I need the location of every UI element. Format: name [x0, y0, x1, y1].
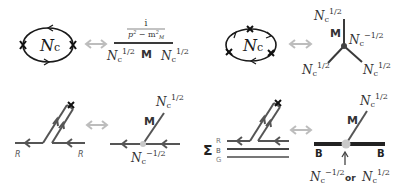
propagator-denominator: p2 − m2M	[128, 29, 165, 40]
panel-bottom-left-quark	[15, 105, 85, 147]
panel-bottom-right-baryon: Σ R B G	[203, 100, 289, 164]
meson-label: M	[141, 48, 152, 61]
top-nc-factor: Nc1/2	[313, 7, 342, 24]
meson-label: M	[347, 114, 358, 127]
quark-meson-vertex: Nc1/2 M Nc−1/2	[110, 93, 184, 166]
three-meson-vertex: Nc1/2 M Nc−1/2 Nc1/2 Nc1/2	[301, 7, 391, 78]
vertex-dot	[342, 140, 351, 149]
baryon-meson-vertex: Nc1/2 M B B Nc−1/2 or Nc1/2	[309, 92, 390, 185]
panel-top-right-loop: Nc	[226, 26, 276, 64]
sum-symbol: Σ	[203, 142, 213, 158]
loop-nc-label: Nc	[39, 36, 60, 55]
vertex-nc-factor: Nc−1/2	[130, 149, 166, 166]
right-nc-factor: Nc1/2	[362, 61, 391, 78]
baryon-label-right: B	[377, 148, 385, 159]
left-nc-factor: Nc1/2	[106, 47, 135, 64]
vertex-nc-factor: Nc−1/2	[348, 31, 384, 48]
equivalence-arrow-icon	[291, 126, 311, 134]
color-label-right: R	[78, 150, 84, 159]
insertion-cross-left-icon	[226, 49, 232, 55]
color-label-left: R	[15, 150, 21, 159]
loop-arrow-left-icon	[231, 32, 236, 38]
meson-label: M	[144, 115, 155, 128]
large-nc-diagrams: Nc i p2 − m2M Nc1/2 M Nc1/2 Nc	[0, 0, 397, 191]
option2-nc-factor: Nc1/2	[361, 168, 390, 185]
vertex-dot	[341, 43, 347, 49]
color-label-g: G	[216, 156, 221, 164]
top-nc-factor: Nc1/2	[359, 92, 388, 109]
loop-nc-label: Nc	[242, 36, 263, 55]
vertex-dot	[140, 141, 146, 147]
propagator-numerator: i	[145, 18, 148, 28]
equivalence-arrow-icon	[87, 121, 107, 129]
or-label: or	[345, 173, 356, 183]
equivalence-arrow-icon	[86, 40, 106, 48]
panel-top-left-loop: Nc	[20, 25, 76, 65]
baryon-label-left: B	[315, 148, 323, 159]
color-label-r: R	[216, 137, 221, 145]
color-label-b: B	[216, 147, 221, 155]
right-nc-factor: Nc1/2	[160, 47, 189, 64]
left-nc-factor: Nc1/2	[301, 61, 330, 78]
option1-nc-factor: Nc−1/2	[309, 168, 345, 185]
meson-label: M	[330, 27, 341, 40]
meson-propagator: i p2 − m2M Nc1/2 M Nc1/2	[106, 18, 189, 64]
equivalence-arrow-icon	[290, 40, 311, 48]
top-nc-factor: Nc1/2	[155, 93, 184, 110]
